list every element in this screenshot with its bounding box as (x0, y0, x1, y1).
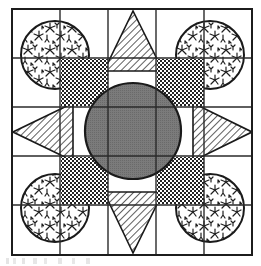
pattern-figure (0, 0, 261, 266)
central-disc (85, 83, 181, 179)
figure-root (0, 0, 261, 266)
